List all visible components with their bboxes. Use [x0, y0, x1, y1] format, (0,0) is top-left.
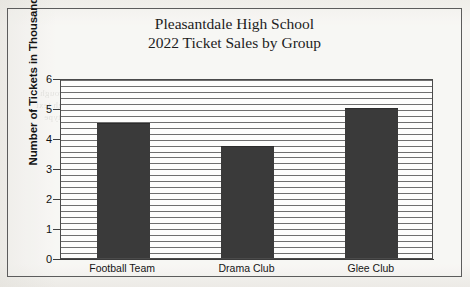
plot-area: [60, 79, 433, 259]
chart-page: the page behind shows faintly through a …: [0, 0, 470, 287]
y-axis-tick-label: 1: [36, 223, 52, 235]
x-axis-line: [53, 259, 434, 260]
bar: [221, 146, 274, 259]
chart-title: Pleasantdale High School 2022 Ticket Sal…: [7, 14, 462, 52]
y-axis-tick-labels: 0123456: [36, 72, 52, 266]
x-axis-tick-label: Football Team: [89, 262, 155, 274]
x-axis-tick-labels: Football TeamDrama ClubGlee Club: [60, 262, 433, 280]
y-axis-tick-mark: [53, 199, 60, 200]
bar: [97, 123, 150, 258]
x-axis-tick-label: Drama Club: [218, 262, 274, 274]
y-axis-tick-label: 6: [36, 73, 52, 85]
y-axis-tick-label: 4: [36, 133, 52, 145]
y-axis-tick-label: 0: [36, 253, 52, 265]
chart-title-line-1: Pleasantdale High School: [7, 14, 462, 33]
y-axis-tick-mark: [53, 139, 60, 140]
bars-layer: [61, 80, 432, 258]
bar: [345, 108, 398, 258]
x-axis-tick-label: Glee Club: [347, 262, 394, 274]
y-axis-tick-mark: [53, 229, 60, 230]
y-axis-tick-mark: [53, 109, 60, 110]
chart-title-line-2: 2022 Ticket Sales by Group: [7, 33, 462, 52]
y-axis-tick-mark: [53, 79, 60, 80]
y-axis-tick-label: 3: [36, 163, 52, 175]
y-axis-tick-label: 2: [36, 193, 52, 205]
y-axis-tick-label: 5: [36, 103, 52, 115]
y-axis-tick-mark: [53, 169, 60, 170]
y-axis-tick-marks: [53, 72, 60, 266]
